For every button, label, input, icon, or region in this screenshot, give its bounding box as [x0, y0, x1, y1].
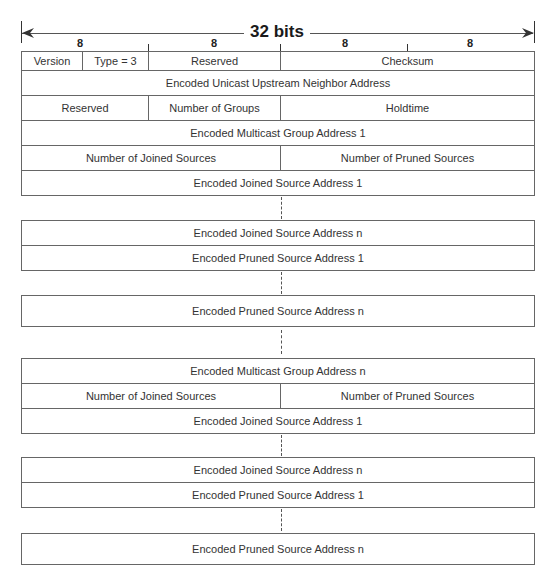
type-field: Type = 3 [82, 51, 149, 71]
reserved-field-2: Reserved [21, 95, 149, 121]
holdtime-field: Holdtime [280, 95, 535, 121]
joined-sources-count-1: Number of Joined Sources [21, 145, 281, 171]
joined-source-n-field: Encoded Joined Source Address n [21, 220, 535, 246]
pruned-sources-count-1: Number of Pruned Sources [280, 145, 535, 171]
group-n-pruned-source-1-field: Encoded Pruned Source Address 1 [21, 482, 535, 508]
reserved-field-1: Reserved [148, 51, 281, 71]
number-of-groups-field: Number of Groups [148, 95, 281, 121]
version-field: Version [21, 51, 83, 71]
column-bits-1: 8 [60, 37, 100, 49]
group-n-joined-source-n-field: Encoded Joined Source Address n [21, 457, 535, 483]
group-n-joined-source-1-field: Encoded Joined Source Address 1 [21, 408, 535, 434]
arrow-right-icon [522, 28, 534, 38]
column-bits-4: 8 [450, 37, 490, 49]
pruned-source-1-field: Encoded Pruned Source Address 1 [21, 245, 535, 271]
right-bound-tick [534, 21, 535, 43]
pruned-source-n-field: Encoded Pruned Source Address n [21, 295, 535, 327]
multicast-group-1-field: Encoded Multicast Group Address 1 [21, 120, 535, 146]
ellipsis-connector [281, 509, 282, 531]
upstream-neighbor-field: Encoded Unicast Upstream Neighbor Addres… [21, 70, 535, 96]
arrow-left-icon [22, 28, 34, 38]
ellipsis-connector [281, 435, 282, 456]
pruned-sources-count-n: Number of Pruned Sources [280, 383, 535, 409]
group-n-pruned-source-n-field: Encoded Pruned Source Address n [21, 533, 535, 565]
checksum-field: Checksum [280, 51, 535, 71]
ellipsis-connector [281, 330, 282, 354]
multicast-group-n-field: Encoded Multicast Group Address n [21, 358, 535, 384]
column-bits-2: 8 [194, 37, 234, 49]
joined-source-1-field: Encoded Joined Source Address 1 [21, 170, 535, 196]
bit-width-title: 32 bits [244, 22, 310, 42]
ellipsis-connector [281, 197, 282, 219]
column-bits-3: 8 [325, 37, 365, 49]
ellipsis-connector [281, 272, 282, 294]
joined-sources-count-n: Number of Joined Sources [21, 383, 281, 409]
